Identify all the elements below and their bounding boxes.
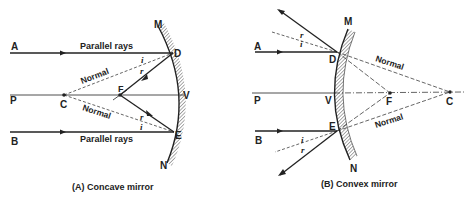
arrow-icon: [277, 129, 283, 134]
ray-a-reflected-b: [279, 10, 337, 52]
label-angle-r-top: r: [140, 66, 144, 76]
label-m: M: [154, 19, 162, 30]
label-m: M: [344, 16, 352, 27]
panel-convex-mirror: A B P V F C D E M N Normal Normal r i i …: [252, 9, 465, 189]
label-e: E: [175, 130, 182, 141]
label-a: A: [254, 41, 261, 52]
ray-a-reflected: [120, 53, 173, 95]
label-angle-r-bottom: r: [140, 112, 144, 122]
normal-ext-top: [272, 32, 337, 52]
concave-mirror-hatch: [158, 23, 186, 166]
label-normal-bottom: Normal: [374, 111, 405, 130]
label-n: N: [350, 163, 357, 174]
normal-bottom-b: [337, 92, 450, 131]
normal-ext-bottom: [275, 131, 337, 152]
convex-mirror-hatch: [334, 29, 357, 160]
label-b: B: [11, 136, 18, 147]
label-parallel-rays-top: Parallel rays: [80, 41, 133, 51]
label-b: B: [255, 135, 262, 146]
arrow-icon: [146, 110, 153, 116]
label-e: E: [329, 121, 336, 132]
label-angle-i-top: i: [300, 39, 303, 49]
arrow-icon: [60, 130, 66, 135]
label-n: N: [160, 160, 167, 171]
label-angle-i-bottom: i: [140, 122, 143, 132]
mirror-diagram: A B P C F V D E M N Parallel rays Parall…: [0, 0, 475, 203]
center-point-b: [448, 90, 452, 94]
center-point-a: [62, 93, 66, 97]
label-p: P: [254, 95, 261, 106]
label-normal-top: Normal: [374, 53, 405, 72]
ray-b-reflected-b: [280, 131, 337, 175]
focus-point-b: [388, 91, 392, 95]
label-p: P: [10, 95, 17, 106]
arrow-icon: [277, 50, 283, 55]
label-v: V: [325, 95, 332, 106]
label-f: F: [118, 84, 124, 94]
label-angle-i-top: i: [141, 55, 144, 65]
label-c: C: [60, 99, 67, 110]
normal-bottom-a: [64, 95, 174, 132]
label-angle-i-bottom: i: [301, 135, 304, 145]
label-v: V: [183, 90, 190, 101]
caption-convex: (B) Convex mirror: [321, 179, 398, 189]
label-angle-r-bottom: r: [301, 145, 305, 155]
caption-concave: (A) Concave mirror: [72, 182, 154, 192]
label-f: F: [386, 96, 392, 107]
label-normal-bottom: Normal: [81, 102, 112, 121]
principal-axis-b-dashed: [334, 92, 465, 93]
label-a: A: [11, 41, 18, 52]
label-d: D: [329, 54, 336, 65]
label-parallel-rays-bottom: Parallel rays: [80, 134, 133, 144]
panel-concave-mirror: A B P C F V D E M N Parallel rays Parall…: [10, 19, 190, 192]
label-d: D: [174, 48, 181, 59]
label-c: C: [446, 96, 453, 107]
arrow-icon: [60, 51, 66, 56]
arrow-icon: [278, 169, 286, 176]
